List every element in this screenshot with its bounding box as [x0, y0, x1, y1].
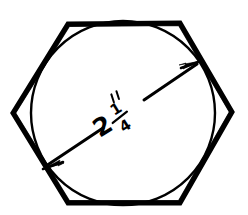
paper-background	[0, 0, 248, 215]
drawing-svg: 2 1 4	[0, 0, 248, 215]
technical-drawing-canvas: 2 1 4	[0, 0, 248, 215]
